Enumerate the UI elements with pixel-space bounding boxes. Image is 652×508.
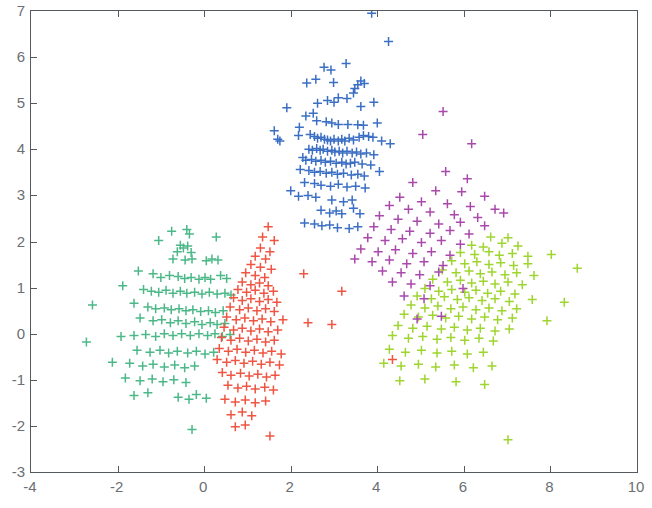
x-tick-label: -4 [23, 479, 36, 494]
x-tick-label: 4 [372, 479, 380, 494]
x-tick-label: 6 [459, 479, 467, 494]
x-tick-label: 0 [199, 479, 207, 494]
x-axis-tick-labels: -4-20246810 [0, 0, 652, 508]
x-tick-label: -2 [110, 479, 123, 494]
x-tick-label: 8 [545, 479, 553, 494]
x-tick-label: 10 [628, 479, 645, 494]
x-tick-label: 2 [286, 479, 294, 494]
scatter-plot-figure: -3-2-101234567 -4-20246810 [0, 0, 652, 508]
